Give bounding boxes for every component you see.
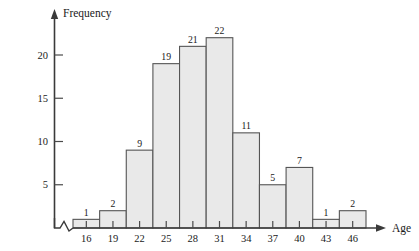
- y-tick-label: 20: [38, 50, 49, 61]
- x-tick-label: 43: [321, 233, 332, 244]
- histogram-bar: [206, 38, 233, 228]
- bar-value-label: 21: [188, 34, 198, 45]
- bar-value-label: 2: [350, 198, 355, 209]
- bar-value-label: 22: [215, 25, 225, 36]
- x-tick-label: 46: [347, 233, 358, 244]
- bar-value-label: 19: [161, 51, 171, 62]
- x-tick-label: 22: [134, 233, 145, 244]
- histogram-bar: [286, 167, 313, 228]
- x-tick-label: 19: [108, 233, 119, 244]
- bar-value-label: 7: [297, 155, 302, 166]
- x-tick-label: 34: [241, 233, 252, 244]
- bar-value-label: 9: [137, 138, 142, 149]
- y-tick-label: 5: [43, 179, 48, 190]
- histogram-figure: 129192122115712 Frequency 5101520 Age 16…: [0, 0, 419, 251]
- x-axis-title: Age: [392, 222, 411, 235]
- y-tick-label: 15: [38, 93, 49, 104]
- x-tick-label: 28: [188, 233, 199, 244]
- bar-value-label: 1: [324, 207, 329, 218]
- histogram-bar: [153, 64, 180, 228]
- bar-value-label: 5: [270, 172, 275, 183]
- y-ticks-group: 5101520: [38, 50, 64, 191]
- x-tick-label: 31: [214, 233, 225, 244]
- arrow-right-icon: [376, 224, 386, 231]
- histogram-bar: [233, 133, 260, 228]
- histogram-chart-canvas: 129192122115712 Frequency 5101520 Age 16…: [0, 0, 419, 251]
- bar-value-label: 2: [110, 198, 115, 209]
- bar-value-label: 11: [241, 120, 251, 131]
- axis-break-zigzag-icon: [55, 218, 74, 231]
- x-tick-label: 16: [81, 233, 92, 244]
- x-tick-label: 40: [294, 233, 305, 244]
- x-tick-label: 25: [161, 233, 172, 244]
- y-axis-title: Frequency: [63, 7, 112, 20]
- x-tick-label: 37: [268, 233, 279, 244]
- bars-group: [73, 38, 366, 228]
- arrow-up-icon: [51, 9, 58, 19]
- bar-value-label: 1: [84, 207, 89, 218]
- y-tick-label: 10: [38, 136, 49, 147]
- histogram-bar: [126, 150, 153, 228]
- histogram-bar: [180, 46, 207, 228]
